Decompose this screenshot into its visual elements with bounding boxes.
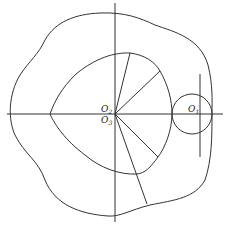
radial-line-2: [115, 71, 160, 114]
radial-line-4: [115, 114, 147, 204]
radial-line-1: [115, 53, 130, 114]
label-o3: O3: [101, 115, 112, 126]
radial-line-3: [115, 114, 158, 157]
cam-diagram: O2 O3 O1: [0, 0, 229, 229]
label-o1: O1: [188, 104, 199, 115]
label-o2: O2: [101, 104, 112, 115]
